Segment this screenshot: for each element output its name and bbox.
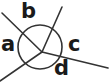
ray-b-line	[42, 7, 62, 52]
label-a: a	[1, 34, 15, 55]
label-d: d	[54, 58, 69, 79]
label-c: c	[68, 34, 80, 55]
ray-d-line	[0, 52, 42, 81]
label-b: b	[21, 1, 36, 22]
angle-diagram-figure: a b c d	[0, 0, 110, 83]
